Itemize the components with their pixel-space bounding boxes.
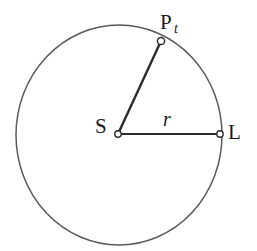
point-marker-pt: [157, 37, 164, 44]
circle-radius-diagram: S L P t r: [0, 0, 257, 251]
label-center-s: S: [95, 114, 107, 138]
label-point-pt-main: P: [160, 10, 172, 34]
point-marker-center-s: [115, 131, 121, 137]
label-point-l: L: [228, 120, 241, 144]
geometry-figure: S L P t r: [0, 0, 257, 251]
radius-segment-s-pt: [118, 41, 161, 134]
label-radius-r: r: [163, 108, 171, 130]
label-point-pt-subscript: t: [174, 21, 179, 36]
point-marker-l: [217, 131, 223, 137]
